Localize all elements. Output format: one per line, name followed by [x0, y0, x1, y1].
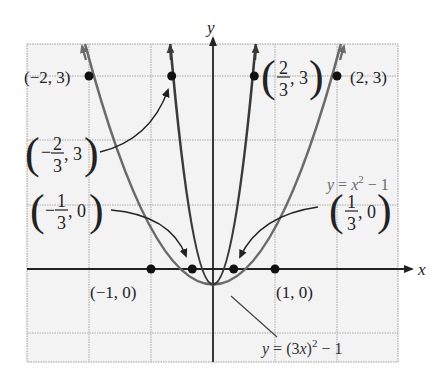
svg-text:(: ( [329, 186, 344, 235]
y-axis-label: y [205, 18, 215, 37]
svg-text:): ) [89, 186, 104, 235]
svg-text:1: 1 [57, 191, 66, 211]
svg-text:2: 2 [53, 134, 62, 154]
point-2-3 [333, 72, 342, 81]
label-neg1-0: (−1, 0) [90, 283, 136, 302]
graph-canvas: x y (−2, 3) (2, 3) (−1, 0) (1, 0) ( − 2 … [0, 0, 430, 389]
svg-text:3: 3 [347, 214, 356, 234]
point-2thirds-3 [250, 72, 259, 81]
svg-text:, 0: , 0 [358, 202, 376, 222]
label-2-3: (2, 3) [350, 68, 387, 87]
svg-text:(: ( [25, 129, 40, 178]
svg-text:3: 3 [53, 156, 62, 176]
label-1-0: (1, 0) [276, 283, 313, 302]
svg-text:1: 1 [347, 192, 356, 212]
svg-text:): ) [309, 52, 324, 101]
x-axis-label: x [417, 260, 426, 279]
svg-text:3: 3 [279, 80, 288, 100]
point-1third-0 [229, 265, 238, 274]
svg-text:−: − [41, 142, 51, 162]
point-neg2thirds-3 [167, 72, 176, 81]
point-neg2-3 [85, 72, 94, 81]
curve2-left-arrow [170, 46, 171, 60]
point-neg1-0 [147, 265, 156, 274]
equation-label-x-squared: y = x2 − 1 [325, 173, 389, 194]
label-neg2thirds-3: ( − 2 3 , 3 ) [25, 129, 99, 178]
svg-text:): ) [84, 129, 99, 178]
svg-text:(: ( [261, 52, 276, 101]
label-neg2-3: (−2, 3) [24, 68, 70, 87]
svg-text:2: 2 [279, 58, 288, 78]
curve2-right-arrow [255, 46, 256, 60]
point-neg1third-0 [188, 265, 197, 274]
point-1-0 [271, 265, 280, 274]
svg-text:, 3: , 3 [64, 144, 82, 164]
svg-text:, 0: , 0 [68, 201, 86, 221]
svg-text:(: ( [30, 186, 45, 235]
svg-text:−: − [45, 200, 55, 220]
svg-text:, 3: , 3 [290, 68, 308, 88]
svg-text:): ) [377, 186, 392, 235]
equation-label-3x-squared: y = (3x)2 − 1 [260, 337, 342, 358]
svg-text:3: 3 [57, 213, 66, 233]
